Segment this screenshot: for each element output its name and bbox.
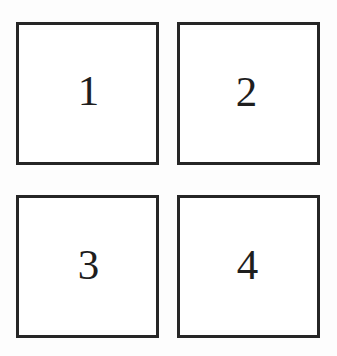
box-1-label: 1: [78, 69, 100, 112]
box-3-label: 3: [78, 243, 100, 286]
numbered-box-grid-figure: 1 2 3 4: [0, 0, 337, 356]
box-grid: 1 2 3 4: [16, 22, 320, 338]
box-2[interactable]: 2: [177, 22, 320, 165]
box-2-label: 2: [236, 70, 258, 113]
box-1[interactable]: 1: [16, 22, 159, 165]
box-3[interactable]: 3: [16, 195, 159, 338]
box-4[interactable]: 4: [177, 195, 320, 338]
box-4-label: 4: [237, 243, 259, 286]
